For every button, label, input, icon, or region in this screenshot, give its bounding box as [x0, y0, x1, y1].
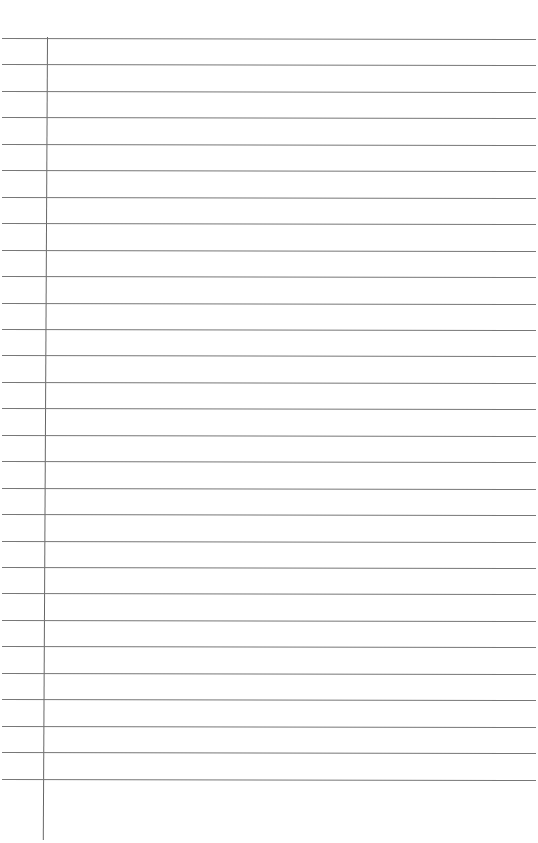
- ruled-line: [2, 117, 536, 119]
- ruled-line: [2, 779, 536, 781]
- ruled-line: [2, 382, 536, 384]
- ruled-line: [2, 223, 536, 225]
- ruled-line: [2, 355, 536, 357]
- ruled-line: [2, 514, 536, 516]
- ruled-line: [2, 64, 536, 66]
- ruled-line: [2, 620, 536, 622]
- ruled-line: [2, 197, 536, 199]
- ruled-line: [2, 567, 536, 569]
- ruled-line: [2, 170, 536, 172]
- ruled-line: [2, 144, 536, 146]
- ruled-line: [2, 541, 536, 543]
- ruled-line: [2, 303, 536, 305]
- ruled-line: [2, 91, 536, 93]
- ruled-line: [2, 276, 536, 278]
- ruled-line: [2, 646, 536, 648]
- ruled-line: [2, 673, 536, 675]
- ruled-line: [2, 329, 536, 331]
- ruled-line: [2, 408, 536, 410]
- ruled-line: [2, 38, 536, 40]
- ruled-line: [2, 752, 536, 754]
- margin-line: [43, 37, 48, 840]
- lined-paper-page: [0, 0, 538, 843]
- ruled-line: [2, 699, 536, 701]
- ruled-line: [2, 726, 536, 728]
- ruled-line: [2, 461, 536, 463]
- ruled-line: [2, 593, 536, 595]
- ruled-line: [2, 488, 536, 490]
- ruled-line: [2, 435, 536, 437]
- ruled-line: [2, 250, 536, 252]
